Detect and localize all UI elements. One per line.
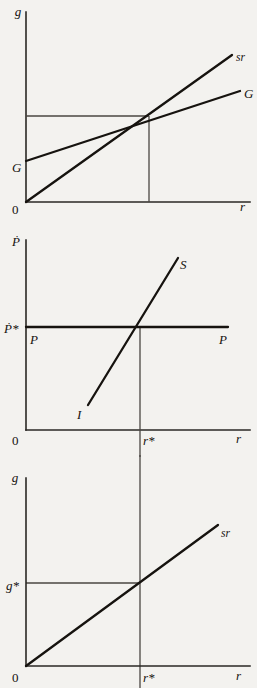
panel-bottom: g r 0 g* sr r* <box>6 455 250 688</box>
figure-canvas: g r 0 G sr G Ṗ r 0 Ṗ* P P S I r* <box>0 0 257 688</box>
middle-IS-line <box>88 258 178 405</box>
middle-y-axis-label: Ṗ <box>11 234 20 249</box>
middle-r-star-label: r* <box>143 433 155 448</box>
middle-p-line-left-label: P <box>29 332 38 347</box>
panel-middle: Ṗ r 0 Ṗ* P P S I r* <box>3 234 250 457</box>
economics-three-panel-figure: g r 0 G sr G Ṗ r 0 Ṗ* P P S I r* <box>0 0 257 688</box>
bottom-sr-line <box>26 525 218 666</box>
top-G-line <box>26 91 240 161</box>
bottom-x-axis-label: r <box>236 668 242 683</box>
top-origin-label: 0 <box>12 202 19 217</box>
middle-s-curve-label: S <box>180 257 187 272</box>
top-sr-curve-label: sr <box>236 51 245 63</box>
bottom-origin-label: 0 <box>12 670 19 685</box>
middle-i-curve-label: I <box>76 407 82 422</box>
middle-origin-label: 0 <box>12 433 19 448</box>
middle-p-line-right-label: P <box>218 332 227 347</box>
bottom-sr-curve-label: sr <box>221 527 230 539</box>
top-g-intercept-label: G <box>12 160 22 175</box>
top-y-axis-label: g <box>15 4 22 19</box>
panel-top: g r 0 G sr G <box>12 4 254 217</box>
middle-x-axis-label: r <box>236 431 242 446</box>
top-G-curve-label: G <box>244 86 254 101</box>
middle-pdot-star-label: Ṗ* <box>3 321 19 336</box>
bottom-y-axis-label: g <box>12 470 19 485</box>
bottom-g-star-label: g* <box>6 578 20 593</box>
bottom-r-star-label: r* <box>143 670 155 685</box>
